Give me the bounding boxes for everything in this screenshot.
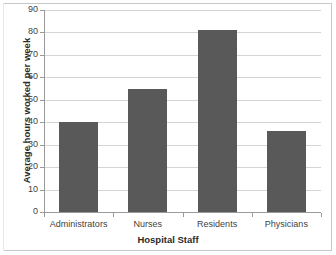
y-axis-tick [40,167,44,168]
y-axis-title-wrapper: Average hours worked per week [2,0,22,215]
chart-frame-top-border [4,3,332,4]
bar [198,30,237,212]
bar [267,131,306,212]
y-axis-tick [40,100,44,101]
x-axis-tick [321,213,322,217]
bar-chart: 0102030405060708090 AdministratorsNurses… [0,0,336,255]
x-axis-tick [44,213,45,217]
x-axis-category-label: Nurses [113,219,182,230]
bar [59,122,98,212]
y-axis-tick [40,122,44,123]
y-axis-tick [40,77,44,78]
x-axis-tick [113,213,114,217]
x-axis-category-label: Administrators [44,219,113,230]
x-axis-category-label: Physicians [252,219,321,230]
x-axis-tick [183,213,184,217]
y-axis-tick [40,190,44,191]
y-axis-title: Average hours worked per week [21,11,32,211]
x-axis-tick [252,213,253,217]
chart-frame-right-border [331,3,332,251]
x-axis-title: Hospital Staff [0,234,336,245]
y-axis-tick [40,55,44,56]
y-axis-tick [40,10,44,11]
x-axis-category-label: Residents [183,219,252,230]
bars-layer [44,10,321,212]
y-axis-tick [40,145,44,146]
y-axis-tick [40,32,44,33]
bar [128,89,167,212]
chart-frame-bottom-border [4,250,332,251]
